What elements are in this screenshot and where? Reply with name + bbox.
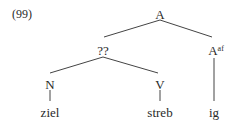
node-superscript: af	[218, 44, 224, 53]
leaf-ig: ig	[209, 106, 219, 119]
node-label: A	[208, 43, 217, 58]
leaf-streb: streb	[147, 106, 172, 119]
tree-edges	[0, 0, 236, 125]
node-adjective-affix: Aaf	[208, 44, 224, 57]
node-noun: N	[45, 78, 54, 91]
leaf-ziel: ziel	[41, 106, 60, 119]
node-verb: V	[155, 78, 164, 91]
node-unknown: ??	[97, 44, 109, 57]
node-root: A	[155, 8, 164, 21]
